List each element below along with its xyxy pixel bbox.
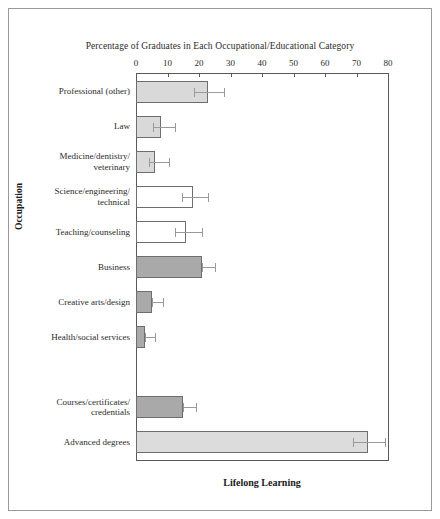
chart-figure: Percentage of Graduates in Each Occupati…	[0, 0, 440, 519]
error-bar-cap	[224, 88, 225, 97]
error-bar-cap	[194, 88, 195, 97]
x-axis-tick-label: 20	[195, 58, 204, 68]
plot-right-spine	[388, 74, 389, 460]
error-bar-line	[175, 232, 202, 233]
y-axis-category-label: Medicine/dentistry/ veterinary	[2, 151, 130, 172]
x-axis-title: Lifelong Learning	[136, 477, 388, 488]
error-bar-cap	[353, 438, 354, 447]
error-bar-line	[194, 92, 224, 93]
y-axis-category-label: Business	[2, 262, 130, 273]
bar	[136, 326, 145, 348]
chart-title: Percentage of Graduates in Each Occupati…	[0, 41, 440, 51]
y-axis-title: Occupation	[14, 183, 24, 230]
error-bar-line	[152, 302, 163, 303]
x-axis-tick-label: 40	[258, 58, 267, 68]
y-axis-category-label: Creative arts/design	[2, 297, 130, 308]
bar	[136, 256, 202, 278]
error-bar-cap	[196, 403, 197, 412]
y-axis-category-label: Advanced degrees	[2, 437, 130, 448]
error-bar-line	[202, 267, 215, 268]
x-axis-tick-label: 30	[226, 58, 235, 68]
error-bar-line	[149, 162, 169, 163]
error-bar-cap	[183, 403, 184, 412]
error-bar-line	[145, 337, 154, 338]
error-bar-cap	[215, 263, 216, 272]
y-axis-category-label: Health/social services	[2, 332, 130, 343]
error-bar-cap	[208, 193, 209, 202]
error-bar-cap	[145, 333, 146, 342]
y-axis-category-label: Law	[2, 121, 130, 132]
error-bar-cap	[155, 333, 156, 342]
bar	[136, 396, 183, 418]
error-bar-cap	[152, 298, 153, 307]
error-bar-cap	[202, 228, 203, 237]
error-bar-cap	[149, 158, 150, 167]
y-axis-category-label: Professional (other)	[2, 86, 130, 97]
error-bar-cap	[175, 123, 176, 132]
plot-bottom-spine	[136, 460, 389, 461]
error-bar-cap	[385, 438, 386, 447]
error-bar-line	[182, 197, 209, 198]
x-axis-tick-label: 70	[352, 58, 361, 68]
x-axis-tick-label: 60	[321, 58, 330, 68]
error-bar-cap	[153, 123, 154, 132]
x-axis-tick-label: 80	[384, 58, 393, 68]
error-bar-cap	[202, 263, 203, 272]
error-bar-line	[153, 127, 175, 128]
bar	[136, 291, 152, 313]
x-axis-tick-label: 50	[289, 58, 298, 68]
plot-area	[136, 74, 388, 460]
error-bar-line	[353, 442, 385, 443]
error-bar-cap	[175, 228, 176, 237]
bar	[136, 431, 368, 453]
x-axis-tick-label: 0	[134, 58, 139, 68]
error-bar-cap	[169, 158, 170, 167]
y-axis-category-label: Courses/certificates/ credentials	[2, 397, 130, 418]
error-bar-line	[183, 407, 196, 408]
x-axis-tick-label: 10	[163, 58, 172, 68]
error-bar-cap	[182, 193, 183, 202]
error-bar-cap	[163, 298, 164, 307]
y-axis-category-labels: Professional (other)LawMedicine/dentistr…	[0, 74, 130, 460]
